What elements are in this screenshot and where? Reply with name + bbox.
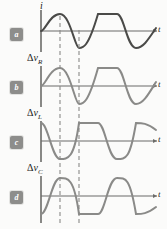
t-axis-arrow-c — [153, 139, 157, 143]
ac-circuit-phase-figure: a i t b ΔvR t c ΔvL t — [0, 0, 167, 229]
panel-d: d ΔvC t — [0, 165, 167, 229]
waveform-svg-c — [0, 110, 167, 165]
waveform-svg-b — [0, 55, 167, 110]
panel-c: c ΔvL t — [0, 110, 167, 165]
panel-b: b ΔvR t — [0, 55, 167, 110]
waveform-svg-d — [0, 165, 167, 229]
t-axis-arrow-d — [153, 194, 157, 198]
panel-a: a i t — [0, 0, 167, 55]
waveform-svg-a — [0, 0, 167, 55]
